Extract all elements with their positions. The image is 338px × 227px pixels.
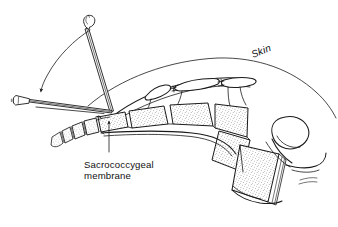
coccygeal-segment-1 xyxy=(84,118,99,135)
vertebral-body-s3 xyxy=(129,106,168,128)
vertebral-bodies xyxy=(98,103,286,205)
coccygeal-segments xyxy=(51,118,99,147)
membrane-label-line2: membrane xyxy=(84,170,131,181)
skin-label-text: Skin xyxy=(250,42,273,60)
caudal-epidural-illustration: Skin Sacrococcygeal membrane xyxy=(0,0,338,227)
membrane-label-line1: Sacrococcygeal xyxy=(84,159,154,170)
vertebral-body-s4 xyxy=(98,112,128,132)
label-skin: Skin xyxy=(250,42,273,60)
posterior-facet-complex xyxy=(266,116,326,184)
label-sacrococcygeal-membrane: Sacrococcygeal membrane xyxy=(84,159,154,181)
needle-shallow-position xyxy=(11,96,112,114)
skin-contour xyxy=(88,58,336,118)
vertebral-body-s2 xyxy=(170,103,213,126)
coccygeal-segment-2 xyxy=(72,122,85,139)
needle-rotation-arrow xyxy=(41,30,90,91)
coccygeal-segment-4 xyxy=(51,132,63,147)
figure-root: Skin Sacrococcygeal membrane xyxy=(0,0,338,227)
